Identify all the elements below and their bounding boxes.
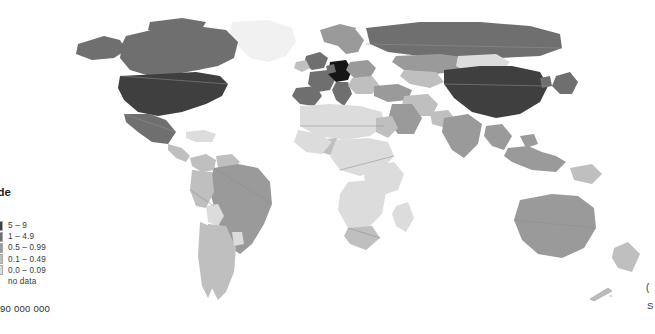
legend-label-0-0-0-09: 0.0 – 0.09 [8,266,46,275]
legend-row-1-4-9[interactable]: 1 – 4.9 [0,231,142,242]
legend-swatch-0-1-0-49 [0,254,3,264]
legend-row-0-0-0-09[interactable]: 0.0 – 0.09 [0,265,142,276]
region-russia [366,22,562,58]
legend-swatch-0-5-0-99 [0,243,3,253]
legend-title-line-1: re of [0,172,142,186]
edge-note-source-initial: S [647,300,653,311]
legend-row-5-9[interactable]: 5 – 9 [0,220,142,231]
legend-label-0-1-0-49: 0.1 – 0.49 [8,255,46,264]
legend-subtitle: ntage [0,204,142,214]
legend-label-5-9: 5 – 9 [8,221,27,230]
legend-label-0-5-0-99: 0.5 – 0.99 [8,243,46,252]
legend-title-line-2: d trade [0,186,142,200]
map-legend: re of d trade ntage 5 – 9 1 – 4.9 0.5 – … [0,172,142,287]
map-page: re of d trade ntage 5 – 9 1 – 4.9 0.5 – … [0,0,655,334]
legend-swatch-1-4-9 [0,232,3,242]
legend-label-1-4-9: 1 – 4.9 [8,232,34,241]
legend-class-list: 5 – 9 1 – 4.9 0.5 – 0.99 0.1 – 0.49 0.0 … [0,220,142,287]
legend-row-0-1-0-49[interactable]: 0.1 – 0.49 [0,254,142,265]
legend-row-no-data[interactable]: no data [0,276,142,287]
legend-swatch-5-9 [0,221,3,231]
edge-note-open-paren: ( [646,282,649,293]
legend-swatch-no-data [0,277,3,287]
region-uruguay-paraguay [232,232,244,246]
legend-row-0-5-0-99[interactable]: 0.5 – 0.99 [0,242,142,253]
map-scale-text: e 1 : 190 000 000 [0,303,50,314]
legend-swatch-0-0-0-09 [0,265,3,275]
legend-label-no-data: no data [8,277,36,286]
legend-title: re of d trade [0,172,142,199]
